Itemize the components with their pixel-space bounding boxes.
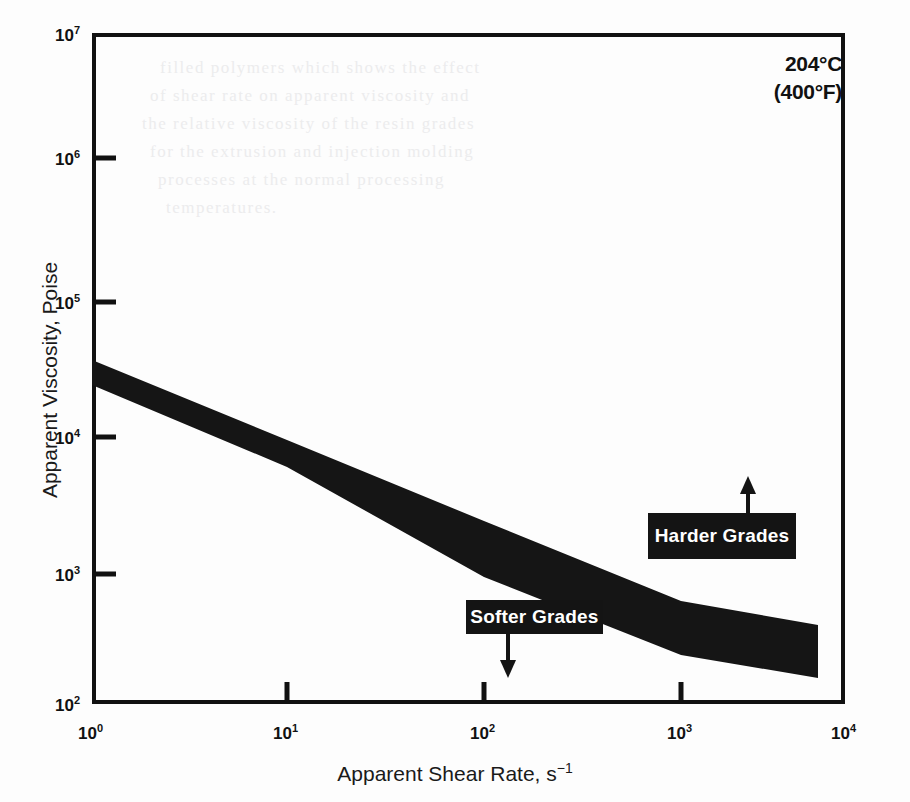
x-axis-ticks — [287, 682, 681, 702]
x-tick-label: 102 — [470, 722, 495, 744]
x-tick-label: 100 — [78, 722, 103, 744]
harder-grades-arrow-icon — [740, 476, 756, 513]
plot-vector-layer — [0, 0, 910, 802]
x-tick-label: 103 — [667, 722, 692, 744]
x-tick-label: 104 — [831, 722, 856, 744]
harder-grades-callout: Harder Grades — [648, 513, 796, 559]
y-tick-label: 106 — [18, 148, 80, 170]
temperature-fahrenheit: (400°F) — [774, 78, 842, 106]
y-tick-label: 102 — [18, 694, 80, 716]
figure-container: filled polymers which shows the effect o… — [0, 0, 910, 802]
y-tick-label: 107 — [18, 24, 80, 46]
x-axis-title: Apparent Shear Rate, s−1 — [0, 760, 910, 786]
softer-grades-arrow-icon — [500, 633, 516, 678]
softer-grades-callout: Softer Grades — [466, 600, 603, 634]
temperature-annotation: 204°C (400°F) — [774, 50, 842, 107]
temperature-celsius: 204°C — [774, 50, 842, 78]
x-tick-label: 101 — [273, 722, 298, 744]
y-axis-title: Apparent Viscosity, Poise — [38, 180, 62, 580]
